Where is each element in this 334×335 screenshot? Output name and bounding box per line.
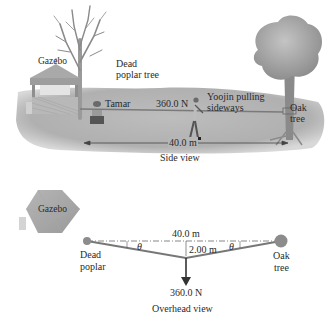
oak-tree-dot bbox=[275, 235, 288, 248]
oak-label-line1: Oak bbox=[290, 102, 307, 113]
theta-right-label: θ bbox=[229, 241, 234, 252]
distance-label-side: 40.0 m bbox=[168, 137, 198, 148]
overhead-view-caption: Overhead view bbox=[152, 303, 213, 314]
theta-left-label: θ bbox=[137, 241, 142, 252]
gazebo-label-side: Gazebo bbox=[38, 56, 67, 67]
force-label-overhead: 360.0 N bbox=[170, 287, 202, 298]
distance-label-overhead: 40.0 m bbox=[172, 228, 200, 239]
yoojin-label-line1: Yoojin pulling bbox=[207, 91, 265, 102]
dead-poplar-label-line2: poplar tree bbox=[116, 69, 159, 80]
yoojin-label-line2: sideways bbox=[207, 102, 244, 113]
dead-poplar-overhead-line1: Dead bbox=[80, 249, 101, 260]
gazebo-label-overhead: Gazebo bbox=[38, 204, 67, 215]
force-label-side: 360.0 N bbox=[156, 98, 188, 109]
rope-overhead bbox=[87, 241, 281, 258]
dead-poplar-dot bbox=[83, 237, 91, 245]
figure-canvas bbox=[0, 0, 334, 335]
side-view-caption: Side view bbox=[160, 152, 200, 163]
tamar-label: Tamar bbox=[105, 98, 130, 109]
oak-label-line2: tree bbox=[290, 113, 305, 124]
dead-poplar-label-line1: Dead bbox=[116, 58, 137, 69]
dead-poplar-overhead-line2: poplar bbox=[80, 261, 106, 272]
oak-overhead-line1: Oak bbox=[273, 250, 290, 261]
side-view bbox=[16, 6, 324, 154]
offset-label: 2.00 m bbox=[189, 244, 217, 255]
oak-overhead-line2: tree bbox=[274, 262, 289, 273]
